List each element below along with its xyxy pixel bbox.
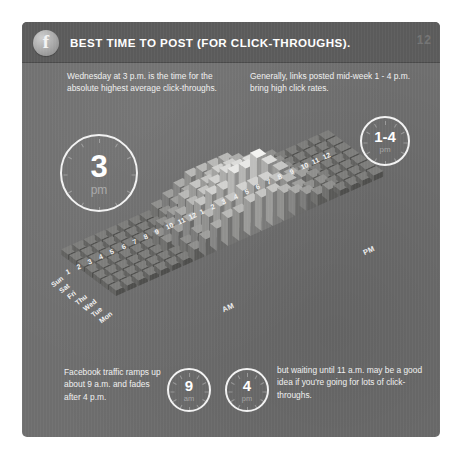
- infographic-stage: f BEST TIME TO POST (FOR CLICK-THROUGHS)…: [0, 0, 465, 458]
- chart-bar-face: [244, 197, 251, 236]
- clock-ramp-up-hour: 9 am: [167, 368, 211, 412]
- note-bottom-right: but waiting until 11 a.m. may be a good …: [277, 364, 423, 401]
- clock-ticks-icon: [62, 136, 136, 210]
- chart-bar-face: [277, 188, 284, 221]
- chart-bar-face: [255, 192, 262, 231]
- note-top-left: Wednesday at 3 p.m. is the time for the …: [67, 70, 227, 95]
- clock-ticks-icon: [227, 370, 267, 410]
- page-title: BEST TIME TO POST (FOR CLICK-THROUGHS).: [70, 36, 351, 49]
- chart-bar-face: [221, 213, 228, 246]
- note-bottom-left: Facebook traffic ramps up about 9 a.m. a…: [64, 366, 164, 403]
- facebook-f-glyph: f: [43, 32, 49, 51]
- facebook-f-icon: f: [33, 30, 59, 56]
- infographic-panel: f BEST TIME TO POST (FOR CLICK-THROUGHS)…: [22, 22, 440, 437]
- clock-peak-range: 1-4 pm: [360, 116, 410, 166]
- clock-ticks-icon: [362, 118, 408, 164]
- clock-fade-hour: 4 pm: [225, 368, 269, 412]
- header-bar: f BEST TIME TO POST (FOR CLICK-THROUGHS)…: [22, 22, 440, 63]
- header-corner-mark: 12: [417, 33, 432, 47]
- clock-peak-hour: 3 pm: [60, 134, 138, 212]
- clock-ticks-icon: [169, 370, 209, 410]
- note-top-right: Generally, links posted mid-week 1 - 4 p…: [250, 70, 420, 95]
- chart-bar-face: [232, 208, 239, 241]
- chart-bar-face: [266, 187, 273, 226]
